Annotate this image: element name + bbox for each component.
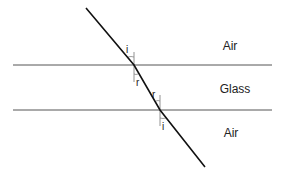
label-r-top: r [136,77,140,88]
refraction-diagram: i r r i Air Glass Air [0,0,287,177]
angle-arc-r-bottom [156,101,160,102]
light-ray [86,8,205,167]
angle-arc-i-bottom [160,118,166,119]
region-label-air-top: Air [223,39,238,53]
angle-arc-i-top [128,57,134,58]
label-i-top: i [126,44,128,55]
angle-arc-r-top [134,74,138,75]
region-label-air-bottom: Air [224,126,239,140]
region-label-glass: Glass [220,82,251,96]
label-r-bottom: r [152,89,156,100]
label-i-bottom: i [162,121,164,132]
